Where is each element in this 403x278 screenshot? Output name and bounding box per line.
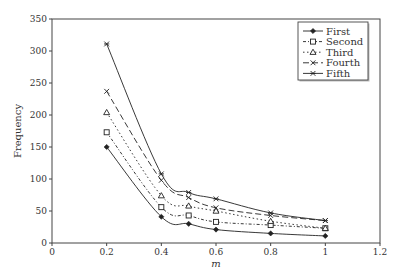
y-tick-label: 150: [30, 142, 47, 152]
y-axis: 050100150200250300350: [30, 14, 52, 248]
x-tick-label: 0.8: [264, 247, 279, 257]
y-axis-title: Frequency: [12, 104, 23, 158]
series-second: [104, 130, 328, 231]
series-first-marker: [268, 231, 273, 236]
series-fifth-marker: [186, 190, 191, 195]
series-fourth-marker: [104, 89, 109, 94]
line-chart: 050100150200250300350 00.20.40.60.811.2 …: [0, 0, 403, 278]
legend-label: Third: [326, 47, 354, 58]
series-fifth-marker: [159, 171, 164, 176]
x-axis-title: m: [211, 258, 220, 269]
series-second-marker: [104, 130, 109, 135]
x-tick-label: 1.2: [373, 247, 387, 257]
series-first-marker: [186, 221, 191, 226]
x-tick-label: 0: [49, 247, 55, 257]
series-fifth-marker: [104, 42, 109, 47]
legend-label: Fifth: [326, 68, 351, 79]
series-fourth-line: [107, 91, 326, 220]
chart: 050100150200250300350 00.20.40.60.811.2 …: [0, 0, 403, 278]
series-second-marker: [214, 219, 219, 224]
y-tick-label: 350: [30, 14, 47, 24]
series-first-marker: [323, 233, 328, 238]
legend-label: First: [326, 26, 350, 37]
x-tick-label: 1: [322, 247, 328, 257]
series-fifth-line: [107, 44, 326, 221]
legend: FirstSecondThirdFourthFifth: [298, 22, 370, 82]
y-tick-label: 300: [30, 46, 47, 56]
legend-second-marker: [311, 39, 316, 44]
y-tick-label: 250: [30, 78, 47, 88]
series-second-marker: [186, 213, 191, 218]
series-third-marker: [268, 218, 274, 223]
x-tick-label: 0.2: [100, 247, 114, 257]
series-fifth-marker: [268, 211, 273, 216]
legend-label: Second: [326, 36, 364, 47]
y-tick-label: 100: [30, 174, 47, 184]
series-first-marker: [213, 227, 218, 232]
series-third: [104, 109, 329, 230]
series-fourth-marker: [186, 195, 191, 200]
y-tick-label: 200: [30, 110, 47, 120]
x-axis: 00.20.40.60.811.2: [49, 243, 387, 257]
series-third-marker: [104, 109, 110, 114]
x-tick-label: 0.6: [209, 247, 224, 257]
legend-label: Fourth: [326, 57, 361, 68]
y-tick-label: 0: [41, 238, 47, 248]
series-fourth: [104, 89, 327, 223]
series-fifth-marker: [323, 218, 328, 223]
series-fourth-marker: [159, 178, 164, 183]
series-layer: [104, 42, 329, 239]
series-fifth: [104, 42, 328, 223]
series-second-marker: [159, 205, 164, 210]
x-tick-label: 0.4: [154, 247, 169, 257]
y-tick-label: 50: [36, 206, 48, 216]
series-fifth-marker: [213, 196, 218, 201]
